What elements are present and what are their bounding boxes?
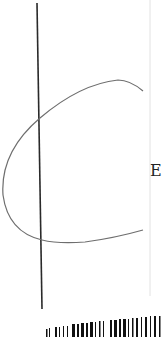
vertical-line bbox=[37, 3, 42, 309]
letter-label: E bbox=[150, 163, 162, 179]
drawing bbox=[0, 0, 163, 337]
hand-drawn-curve bbox=[3, 80, 143, 243]
scanned-sheet: E bbox=[0, 0, 163, 337]
barcode bbox=[44, 316, 163, 337]
